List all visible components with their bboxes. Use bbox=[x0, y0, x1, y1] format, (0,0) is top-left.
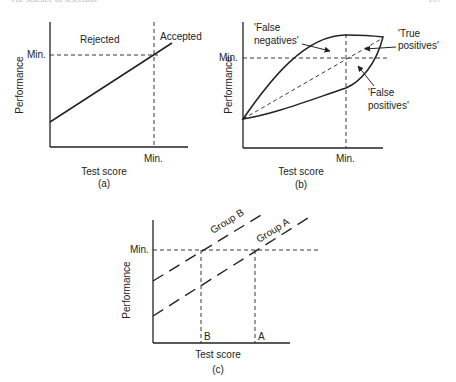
panel-b-false-positives-label-1: 'False bbox=[368, 87, 395, 98]
panel-b-ylabel: Performance bbox=[223, 56, 234, 114]
panel-b-caption: (b) bbox=[295, 179, 307, 190]
panel-c-x-label-a: A bbox=[258, 331, 265, 342]
panel-b-false-negatives-label-2: negatives' bbox=[254, 35, 299, 46]
figure-canvas: Min. Min. Rejected Accepted Performance … bbox=[0, 0, 456, 382]
panel-b-x-min-label: Min. bbox=[336, 153, 355, 164]
panel-a: Min. Min. Rejected Accepted Performance … bbox=[14, 22, 202, 189]
panel-a-y-min-label: Min. bbox=[27, 49, 46, 60]
panel-a-x-min-label: Min. bbox=[144, 153, 163, 164]
panel-b-xlabel: Test score bbox=[278, 166, 324, 177]
panel-c: Group B Group A Min. B A Performance Tes… bbox=[121, 206, 320, 375]
panel-b-true-positives-label-2: positives' bbox=[398, 40, 439, 51]
panel-b-true-positives-label-1: 'True bbox=[398, 28, 421, 39]
panel-c-xlabel: Test score bbox=[195, 349, 241, 360]
panel-a-regression-line bbox=[50, 43, 172, 122]
panel-c-x-label-b: B bbox=[204, 331, 211, 342]
panel-b-false-negatives-arrow bbox=[302, 44, 330, 51]
panel-a-rejected-label: Rejected bbox=[80, 34, 119, 45]
panel-b-regression-line bbox=[243, 38, 383, 119]
panel-b-false-positives-arrow bbox=[358, 66, 374, 86]
panel-a-ylabel: Performance bbox=[14, 56, 25, 114]
panel-c-group-b-label: Group B bbox=[208, 206, 246, 235]
panel-c-caption: (c) bbox=[212, 364, 224, 375]
panel-a-accepted-label: Accepted bbox=[160, 31, 202, 42]
panel-b: Min. Min. 'False negatives' 'True positi… bbox=[219, 22, 439, 190]
panel-b-false-positives-label-2: positives' bbox=[368, 100, 409, 111]
panel-a-xlabel: Test score bbox=[81, 166, 127, 177]
panel-b-false-negatives-label-1: 'False bbox=[254, 22, 281, 33]
panel-c-y-min-label: Min. bbox=[130, 244, 149, 255]
panel-c-group-b-line bbox=[153, 212, 266, 281]
panel-a-caption: (a) bbox=[98, 178, 110, 189]
panel-c-ylabel: Performance bbox=[121, 261, 132, 319]
